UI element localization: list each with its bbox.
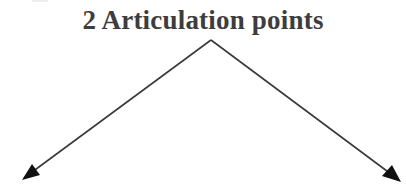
left-arrowhead-icon (22, 164, 40, 180)
branch-arrows (0, 0, 406, 194)
right-arrow (211, 40, 399, 180)
left-arrow (24, 40, 211, 178)
right-arrowhead-icon (382, 165, 401, 182)
